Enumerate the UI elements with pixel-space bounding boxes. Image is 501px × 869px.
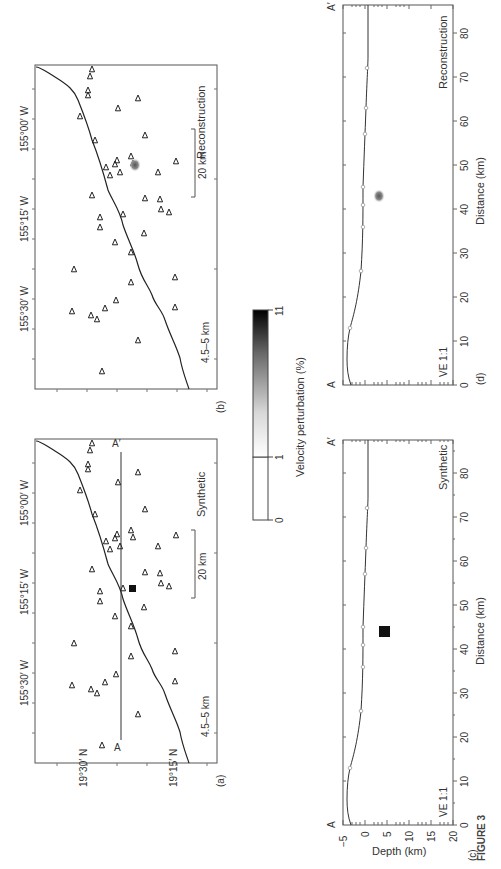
section-d-title: Reconstruction [437, 16, 449, 89]
svg-text:50: 50 [459, 159, 470, 171]
svg-text:0: 0 [360, 831, 371, 837]
svg-text:30: 30 [459, 247, 470, 259]
section-c-ylabel: Depth (km) [372, 845, 426, 857]
map-title-b: Reconstruction [195, 86, 207, 159]
scale-bar-label-a: 20 km [197, 553, 208, 580]
colorbar-white-segment [253, 457, 268, 520]
svg-text:0: 0 [459, 822, 470, 828]
svg-text:15: 15 [426, 830, 437, 842]
figure-caption: FIGURE 3 [476, 1, 487, 861]
section-c-frame [343, 440, 453, 825]
svg-text:10: 10 [459, 775, 470, 787]
colorbar-tick-1: 1 [274, 454, 285, 460]
colorbar: 0 1 11 Velocity perturbation (%) [253, 305, 306, 523]
figure-canvas: A A′ [0, 0, 501, 869]
profile-start-label-a: A [114, 742, 121, 753]
svg-text:5: 5 [382, 831, 393, 837]
section-c-ve-label: VE 1:1 [438, 787, 449, 817]
svg-text:60: 60 [459, 115, 470, 127]
colorbar-title: Velocity perturbation (%) [294, 357, 306, 477]
synthetic-anomaly-square [129, 585, 136, 592]
lat-label-a-1: 19°30′ N [78, 749, 89, 787]
colorbar-tick-11: 11 [274, 305, 285, 316]
svg-text:20: 20 [448, 830, 459, 842]
svg-text:70: 70 [459, 511, 470, 523]
section-d-ve-label: VE 1:1 [438, 347, 449, 377]
section-c-title: Synthetic [437, 444, 449, 490]
section-panel-c: A A′ VE 1:1 Synthetic 0 10 20 30 40 50 6… [326, 437, 486, 861]
svg-text:70: 70 [459, 71, 470, 83]
map-a-frame [35, 439, 217, 763]
section-c-x-tick-labels: 0 10 20 30 40 50 60 70 80 [459, 467, 470, 828]
recovered-anomaly-section [373, 189, 385, 203]
depth-label-b: 4.5–5 km [200, 322, 211, 363]
lon-label-a-1: 155°30′ W [19, 660, 30, 706]
section-d-x-tick-labels: 0 10 20 30 40 50 60 70 80 [459, 27, 470, 388]
svg-text:−5: −5 [338, 835, 349, 847]
map-title-a: Synthetic [195, 471, 207, 517]
svg-text:40: 40 [459, 203, 470, 215]
svg-text:10: 10 [404, 830, 415, 842]
svg-text:80: 80 [459, 467, 470, 479]
colorbar-gradient-segment [253, 310, 268, 457]
map-b-frame [35, 65, 217, 389]
lon-label-b-1: 155°30′ W [19, 286, 30, 332]
section-c-start: A [326, 821, 337, 828]
panel-label-b: (b) [215, 401, 226, 413]
synthetic-anomaly-section [379, 626, 390, 637]
svg-text:10: 10 [459, 335, 470, 347]
svg-text:40: 40 [459, 643, 470, 655]
lon-label-a-3: 155°00′ W [19, 480, 30, 526]
svg-text:20: 20 [459, 291, 470, 303]
section-c-end: A′ [326, 437, 337, 446]
profile-end-label-a: A′ [112, 438, 121, 449]
lat-label-a-2: 19°15′ N [168, 749, 179, 787]
section-panel-d: A A′ VE 1:1 Reconstruction 0 10 20 30 40… [326, 2, 486, 388]
colorbar-tick-0: 0 [274, 517, 285, 523]
svg-text:20: 20 [459, 731, 470, 743]
svg-text:80: 80 [459, 27, 470, 39]
recovered-anomaly-blob [129, 158, 141, 172]
lon-label-a-2: 155°15′ W [19, 569, 30, 615]
lon-label-b-3: 155°00′ W [19, 106, 30, 152]
depth-label-a: 4.5–5 km [200, 696, 211, 737]
figure-3: A A′ [0, 0, 501, 869]
svg-text:30: 30 [459, 687, 470, 699]
map-panel-a: A A′ [19, 438, 226, 787]
lon-label-b-2: 155°15′ W [19, 196, 30, 242]
map-panel-b: 20 km 4.5–5 km Reconstruction 155°30′ W … [19, 65, 226, 413]
panel-label-a: (a) [215, 775, 226, 787]
svg-text:0: 0 [459, 382, 470, 388]
section-d-start: A [326, 381, 337, 388]
svg-text:60: 60 [459, 555, 470, 567]
svg-text:50: 50 [459, 599, 470, 611]
section-d-end: A′ [326, 2, 337, 11]
